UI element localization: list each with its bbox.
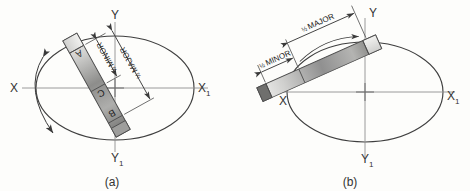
panel-caption-b: (b) (343, 175, 358, 189)
center-mark-b (356, 83, 374, 101)
axis-label-x-left-b: X (279, 94, 287, 108)
axis-label-y-bottom-b-sub: 1 (369, 160, 374, 169)
panel-b: X X1 Y Y1 ½MINOR (250, 3, 460, 189)
figure-canvas: X X1 Y Y1 A C B (0, 0, 470, 191)
axis-label-y-top-b: Y (369, 6, 377, 20)
axis-label-x-right-a-text: X (198, 81, 206, 95)
panel-caption-a: (a) (105, 175, 120, 189)
ext-line-major-2-a (124, 98, 154, 114)
axis-label-y-bottom-a-text: Y (111, 151, 119, 165)
dim-label-minor-b: ½MINOR (258, 48, 293, 70)
axis-label-y-bottom-b: Y1 (361, 152, 374, 169)
axis-label-y-bottom-a-sub: 1 (119, 159, 124, 168)
axis-label-y-bottom-a: Y1 (111, 151, 124, 168)
panel-a: X X1 Y Y1 A C B (10, 8, 211, 189)
dim-name-major-a: MAJOR (118, 45, 140, 74)
dim-label-major-a: ½MAJOR (118, 45, 143, 80)
drawing-svg: X X1 Y Y1 A C B (0, 0, 470, 191)
axis-label-x-right-a-sub: 1 (206, 89, 211, 98)
axis-label-x-right-b-text: X (447, 89, 455, 103)
ext-line-minor-2-a (107, 75, 121, 83)
sweep-arc-a (35, 57, 53, 133)
axis-label-x-left-a: X (10, 81, 18, 95)
axis-label-x-right-b: X1 (447, 89, 460, 106)
ext-line-major-2-b (352, 6, 366, 38)
axis-label-x-right-b-sub: 1 (455, 97, 460, 106)
axis-label-x-right-a: X1 (198, 81, 211, 98)
axis-label-y-bottom-b-text: Y (361, 152, 369, 166)
dim-label-major-b: ½MAJOR (300, 12, 336, 35)
dim-name-minor-a: MINOR (95, 41, 116, 69)
axis-label-y-top-a: Y (111, 8, 119, 22)
